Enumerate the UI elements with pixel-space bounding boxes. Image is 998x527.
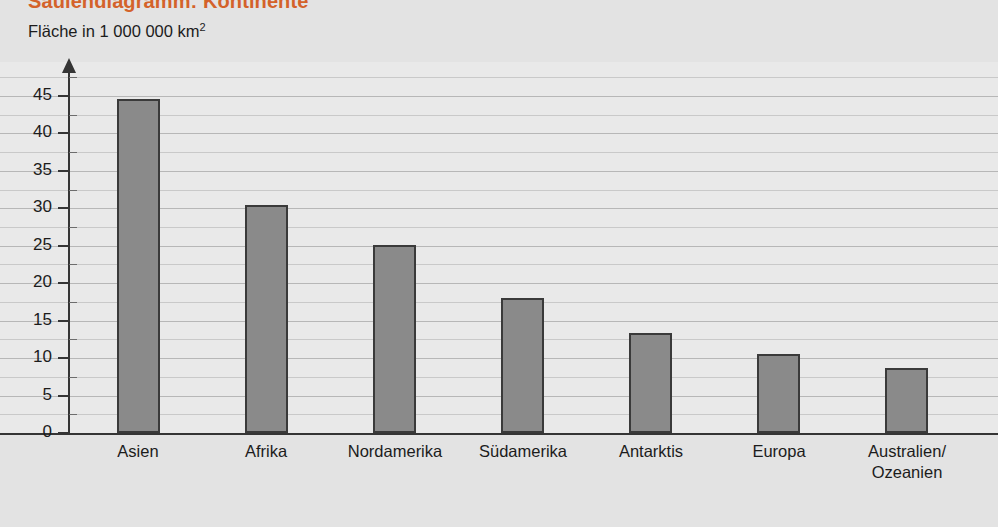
y-axis-tick [58, 95, 69, 97]
y-axis-tick [58, 207, 69, 209]
y-axis-tick [58, 320, 69, 322]
y-axis-tick-label: 45 [8, 85, 52, 105]
category-label-line: Afrika [245, 442, 287, 460]
bar-südamerika[interactable] [501, 298, 544, 433]
y-axis-minor-tick [69, 302, 77, 303]
y-axis-tick-label: 0 [8, 422, 52, 442]
y-axis-tick [58, 170, 69, 172]
y-axis-tick [58, 282, 69, 284]
y-axis-tick-label: 20 [8, 272, 52, 292]
category-label-line: Ozeanien [817, 462, 997, 483]
bar-europa[interactable] [757, 354, 800, 433]
x-axis-line [0, 433, 998, 435]
y-axis-tick [58, 432, 69, 434]
y-axis-tick-label: 35 [8, 160, 52, 180]
page-title: Säulendiagramm: Kontinente [28, 0, 308, 13]
bar-antarktis[interactable] [629, 333, 672, 433]
x-axis-category-label: Australien/Ozeanien [817, 441, 997, 483]
bar-nordamerika[interactable] [373, 245, 416, 433]
category-label-line: Europa [752, 442, 805, 460]
y-axis-minor-tick [69, 152, 77, 153]
y-axis-minor-tick [69, 190, 77, 191]
y-axis-unit-exponent: 2 [200, 21, 206, 33]
category-label-line: Südamerika [479, 442, 567, 460]
y-axis-minor-tick [69, 377, 77, 378]
gridline-major [0, 96, 998, 97]
y-axis-tick-label: 15 [8, 310, 52, 330]
y-axis-line [68, 70, 70, 435]
y-axis-tick-label: 40 [8, 122, 52, 142]
y-axis-tick-label: 10 [8, 347, 52, 367]
y-axis-tick [58, 245, 69, 247]
y-axis-tick [58, 395, 69, 397]
y-axis-minor-tick [69, 227, 77, 228]
y-axis-tick-label: 25 [8, 235, 52, 255]
y-axis-unit-text: Fläche in 1 000 000 km [28, 22, 200, 40]
chart-plot-area: 051015202530354045 [0, 62, 998, 435]
y-axis-tick [58, 132, 69, 134]
category-label-line: Nordamerika [348, 442, 442, 460]
y-axis-minor-tick [69, 264, 77, 265]
y-axis-tick [58, 357, 69, 359]
y-axis-minor-tick [69, 115, 77, 116]
y-axis-minor-tick [69, 339, 77, 340]
y-axis-minor-tick [69, 414, 77, 415]
bar-asien[interactable] [117, 99, 160, 433]
y-axis-minor-tick [69, 77, 77, 78]
category-label-line: Australien/ [868, 442, 946, 460]
y-axis-tick-label: 5 [8, 385, 52, 405]
category-label-line: Antarktis [619, 442, 683, 460]
y-axis-unit-label: Fläche in 1 000 000 km2 [28, 22, 206, 41]
y-axis-tick-label: 30 [8, 197, 52, 217]
x-axis-category-labels: AsienAfrikaNordamerikaSüdamerikaAntarkti… [0, 441, 998, 501]
y-axis-arrow-icon [62, 58, 76, 73]
category-label-line: Asien [117, 442, 158, 460]
gridline-minor [0, 77, 998, 78]
bar-afrika[interactable] [245, 205, 288, 433]
bar-australienozeanien[interactable] [885, 368, 928, 433]
